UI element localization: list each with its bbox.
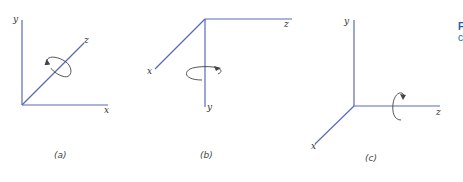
y-axis-label: y xyxy=(12,14,19,24)
figure-title-fragment: F xyxy=(458,21,463,32)
panel-caption: (a) xyxy=(54,150,67,160)
figure-caption-fragment: F c xyxy=(458,21,463,43)
panel-a: y x z (a) xyxy=(12,14,109,160)
panel-caption: (c) xyxy=(365,153,377,163)
z-axis-label: z xyxy=(435,107,441,117)
z-axis-label: z xyxy=(83,35,89,45)
z-axis xyxy=(22,43,84,105)
y-axis-label: y xyxy=(343,16,350,26)
rotation-arrowhead-icon xyxy=(214,66,221,71)
figure-subtitle-fragment: c xyxy=(458,32,463,43)
panel-b: z x y (b) xyxy=(147,19,292,160)
panel-caption: (b) xyxy=(200,150,213,160)
x-axis-label: x xyxy=(104,105,109,115)
rotation-arrowhead-icon xyxy=(400,94,406,100)
x-axis xyxy=(155,19,205,69)
rotation-axes-diagram: y x z (a) z x y (b) y z x (c) F c xyxy=(0,0,463,182)
y-axis-label: y xyxy=(206,102,213,112)
x-axis-label: x xyxy=(147,66,152,76)
x-axis xyxy=(315,106,354,144)
x-axis-label: x xyxy=(311,141,316,151)
z-axis-label: z xyxy=(283,19,289,29)
panel-c: y z x (c) xyxy=(311,16,441,163)
